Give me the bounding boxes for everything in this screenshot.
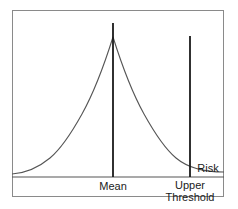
upper-threshold-label-line2: Threshold	[166, 191, 215, 203]
upper-threshold-label: Upper Threshold	[166, 179, 215, 203]
risk-label: Risk	[197, 162, 218, 174]
mean-label-text: Mean	[99, 180, 127, 192]
distribution-figure: Mean Upper Threshold Risk	[0, 0, 238, 209]
upper-threshold-label-line1: Upper	[175, 179, 205, 191]
mean-label: Mean	[99, 180, 127, 192]
normal-curve	[12, 37, 224, 174]
risk-label-text: Risk	[197, 162, 218, 174]
distribution-chart	[12, 10, 224, 197]
